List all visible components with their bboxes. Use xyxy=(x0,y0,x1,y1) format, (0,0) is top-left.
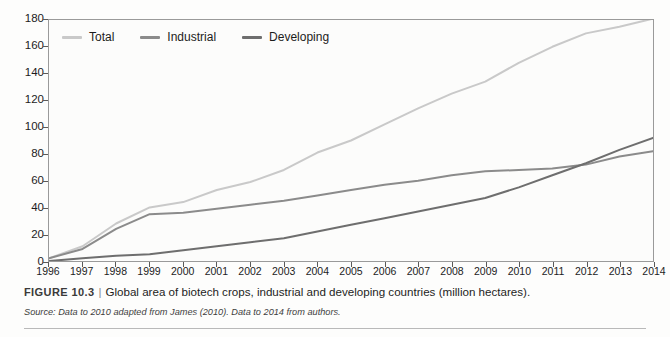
y-axis-tick-label: 180 xyxy=(14,13,44,25)
y-axis-tick-mark xyxy=(43,46,48,47)
y-axis-tick-mark xyxy=(43,127,48,128)
x-axis-tick-label: 2003 xyxy=(272,266,295,277)
x-axis-tick-mark xyxy=(553,262,554,267)
y-axis-labels: 020406080100120140160180 xyxy=(10,19,44,262)
y-axis-tick-label: 20 xyxy=(14,229,44,241)
x-axis-tick-mark xyxy=(250,262,251,267)
y-axis-tick-label: 120 xyxy=(14,94,44,106)
legend-swatch-icon xyxy=(140,36,160,39)
legend-item-total: Total xyxy=(62,31,114,43)
chart-area: 020406080100120140160180 199619971998199… xyxy=(0,0,670,278)
y-axis-tick-label: 100 xyxy=(14,121,44,133)
x-axis-tick-mark xyxy=(418,262,419,267)
x-axis-tick-label: 2001 xyxy=(205,266,228,277)
x-axis-tick-label: 2013 xyxy=(609,266,632,277)
x-axis-tick-label: 1998 xyxy=(104,266,127,277)
y-axis-tick-mark xyxy=(43,208,48,209)
x-axis-tick-mark xyxy=(284,262,285,267)
x-axis-tick-label: 2012 xyxy=(575,266,598,277)
plot-lines xyxy=(49,20,653,261)
legend-item-developing: Developing xyxy=(242,31,329,43)
x-axis-tick-mark xyxy=(654,262,655,267)
figure-caption: FIGURE 10.3|Global area of biotech crops… xyxy=(24,282,646,300)
x-axis-tick-label: 2008 xyxy=(440,266,463,277)
legend-swatch-icon xyxy=(242,36,262,39)
y-axis-tick-mark xyxy=(43,235,48,236)
x-axis-tick-mark xyxy=(486,262,487,267)
x-axis-tick-label: 2010 xyxy=(508,266,531,277)
y-axis-tick-label: 80 xyxy=(14,148,44,160)
x-axis-tick-mark xyxy=(519,262,520,267)
x-axis-tick-label: 2009 xyxy=(474,266,497,277)
y-axis-tick-label: 60 xyxy=(14,175,44,187)
x-axis-tick-label: 2007 xyxy=(407,266,430,277)
caption-text: Global area of biotech crops, industrial… xyxy=(105,285,530,298)
legend-label: Developing xyxy=(269,31,329,43)
x-axis-tick-label: 2011 xyxy=(542,266,565,277)
x-axis-tick-label: 2002 xyxy=(238,266,261,277)
y-axis-tick-mark xyxy=(43,19,48,20)
x-axis-tick-label: 2000 xyxy=(171,266,194,277)
x-axis-tick-mark xyxy=(587,262,588,267)
y-axis-tick-mark xyxy=(43,181,48,182)
x-axis-tick-mark xyxy=(216,262,217,267)
y-axis-tick-label: 140 xyxy=(14,67,44,79)
source-line: Source: Data to 2010 adapted from James … xyxy=(24,307,646,318)
y-axis-tick-mark xyxy=(43,73,48,74)
x-axis-tick-label: 2006 xyxy=(373,266,396,277)
series-line-total xyxy=(49,20,653,258)
plot-frame xyxy=(48,19,654,262)
y-axis-tick-mark xyxy=(43,100,48,101)
x-axis-tick-mark xyxy=(452,262,453,267)
bottom-divider xyxy=(24,328,646,329)
x-axis-tick-mark xyxy=(351,262,352,267)
x-axis-tick-label: 2005 xyxy=(339,266,362,277)
x-axis-tick-label: 2014 xyxy=(642,266,665,277)
caption-block: FIGURE 10.3|Global area of biotech crops… xyxy=(0,282,670,337)
caption-separator: | xyxy=(94,285,105,298)
x-axis-tick-mark xyxy=(183,262,184,267)
chart-legend: TotalIndustrialDeveloping xyxy=(62,31,329,43)
figure-number: FIGURE 10.3 xyxy=(24,286,94,298)
series-line-developing xyxy=(49,138,653,261)
legend-label: Total xyxy=(89,31,114,43)
series-line-industrial xyxy=(49,151,653,258)
y-axis-tick-mark xyxy=(43,154,48,155)
x-axis-tick-label: 1996 xyxy=(36,266,59,277)
legend-label: Industrial xyxy=(167,31,216,43)
x-axis-tick-mark xyxy=(149,262,150,267)
x-axis-labels: 1996199719981999200020012002200320042005… xyxy=(48,266,654,282)
legend-swatch-icon xyxy=(62,36,82,39)
legend-item-industrial: Industrial xyxy=(140,31,216,43)
x-axis-tick-label: 1997 xyxy=(70,266,93,277)
x-axis-tick-label: 1999 xyxy=(137,266,160,277)
x-axis-tick-mark xyxy=(48,262,49,267)
x-axis-tick-mark xyxy=(620,262,621,267)
y-axis-tick-label: 160 xyxy=(14,40,44,52)
x-axis-tick-mark xyxy=(317,262,318,267)
x-axis-tick-mark xyxy=(82,262,83,267)
x-axis-tick-mark xyxy=(115,262,116,267)
x-axis-tick-mark xyxy=(385,262,386,267)
figure-page: 020406080100120140160180 199619971998199… xyxy=(0,0,670,337)
y-axis-tick-label: 40 xyxy=(14,202,44,214)
x-axis-tick-label: 2004 xyxy=(306,266,329,277)
